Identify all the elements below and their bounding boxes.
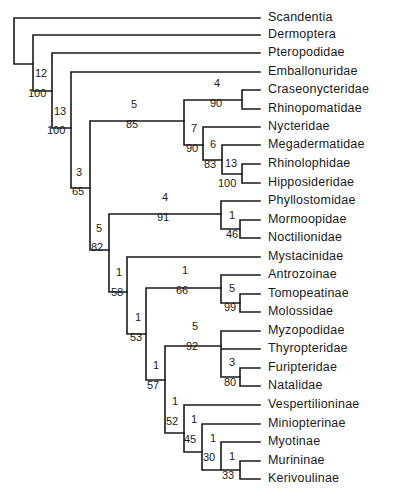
taxon-label: Scandentia <box>268 10 333 24</box>
support-value: 57 <box>147 379 159 391</box>
taxon-label: Mystacinidae <box>268 249 343 263</box>
taxon-label: Phyllostomidae <box>268 193 356 207</box>
support-value: 58 <box>111 286 123 298</box>
branch-chiroptera-node <box>52 53 260 128</box>
support-value: 33 <box>222 469 234 481</box>
support-value: 5 <box>229 282 235 294</box>
support-value: 66 <box>176 284 188 296</box>
branch-murininae-kerivoulinae <box>240 461 260 479</box>
support-value: 46 <box>226 228 238 240</box>
taxon-label: Pteropodidae <box>268 45 345 59</box>
support-value: 1 <box>153 359 159 371</box>
support-value: 100 <box>28 87 46 99</box>
taxon-label: Vespertilioninae <box>268 397 359 411</box>
taxon-label: Craseonycteridae <box>268 82 369 96</box>
branch-dermoptera-node <box>33 35 260 91</box>
taxon-label: Tomopeatinae <box>268 286 349 300</box>
support-value: 80 <box>224 376 236 388</box>
support-value: 92 <box>186 340 198 352</box>
support-value: 99 <box>224 301 236 313</box>
branch-root <box>14 18 260 64</box>
support-value: 90 <box>210 97 222 109</box>
branch-mormoopidae-noctilionidae <box>240 220 260 238</box>
branch-node-1-45 <box>202 424 260 470</box>
taxon-label: Miniopterinae <box>268 416 346 430</box>
taxon-label: Murininae <box>268 453 325 467</box>
support-value: 45 <box>184 433 196 445</box>
support-value: 90 <box>186 142 198 154</box>
taxon-label: Thyropteridae <box>268 341 348 355</box>
taxon-label: Molossidae <box>268 304 333 318</box>
support-value: 3 <box>76 166 82 178</box>
taxon-label: Myotinae <box>268 434 320 448</box>
support-value: 4 <box>214 77 220 89</box>
taxon-label: Kerivoulinae <box>268 471 339 485</box>
taxon-label: Hipposideridae <box>268 175 354 189</box>
taxon-label: Emballonuridae <box>268 64 358 78</box>
support-value: 3 <box>229 356 235 368</box>
support-value: 5 <box>131 98 137 110</box>
taxon-label: Furipteridae <box>268 360 337 374</box>
branch-tomopeatinae-molossidae <box>240 294 260 312</box>
taxon-label: Dermoptera <box>268 27 336 41</box>
support-value: 83 <box>204 158 216 170</box>
taxon-label: Rhinopomatidae <box>268 101 362 115</box>
taxon-label: Noctilionidae <box>268 230 342 244</box>
taxon-label: Nycteridae <box>268 119 330 133</box>
support-value: 65 <box>72 185 84 197</box>
support-value: 5 <box>96 222 102 234</box>
support-value: 6 <box>210 138 216 150</box>
branch-node-3-65 <box>90 121 184 250</box>
support-value: 30 <box>203 451 215 463</box>
support-value: 1 <box>210 432 216 444</box>
support-value: 1 <box>229 209 235 221</box>
taxon-label: Megadermatidae <box>268 137 365 151</box>
support-value: 1 <box>182 264 188 276</box>
support-value: 1 <box>135 311 141 323</box>
support-value: 82 <box>91 241 103 253</box>
branch-microchiroptera-node <box>71 72 260 188</box>
support-value: 5 <box>192 320 198 332</box>
taxon-label: Antrozoinae <box>268 267 337 281</box>
support-value: 13 <box>54 105 66 117</box>
support-value: 13 <box>225 157 237 169</box>
support-value: 7 <box>191 122 197 134</box>
support-value: 1 <box>116 266 122 278</box>
support-value: 53 <box>130 331 142 343</box>
support-value: 100 <box>218 177 236 189</box>
taxon-label: Mormoopidae <box>268 212 347 226</box>
taxon-label: Rhinolophidae <box>268 156 351 170</box>
branch-rhinolophidae-hipposideridae <box>242 164 260 183</box>
taxon-label: Natalidae <box>268 378 323 392</box>
support-value: 4 <box>162 191 168 203</box>
support-value: 12 <box>35 67 47 79</box>
support-value: 85 <box>126 118 138 130</box>
taxon-label: Myzopodidae <box>268 323 345 337</box>
support-value: 52 <box>166 415 178 427</box>
support-value: 1 <box>191 413 197 425</box>
branch-craseonycteridae-rhinopomatidae <box>242 90 260 109</box>
branch-furipteridae-natalidae <box>240 368 260 386</box>
branch-node-5-82 <box>109 214 221 292</box>
support-value: 91 <box>157 211 169 223</box>
support-value: 100 <box>47 124 65 136</box>
support-value: 1 <box>172 395 178 407</box>
support-value: 1 <box>229 450 235 462</box>
